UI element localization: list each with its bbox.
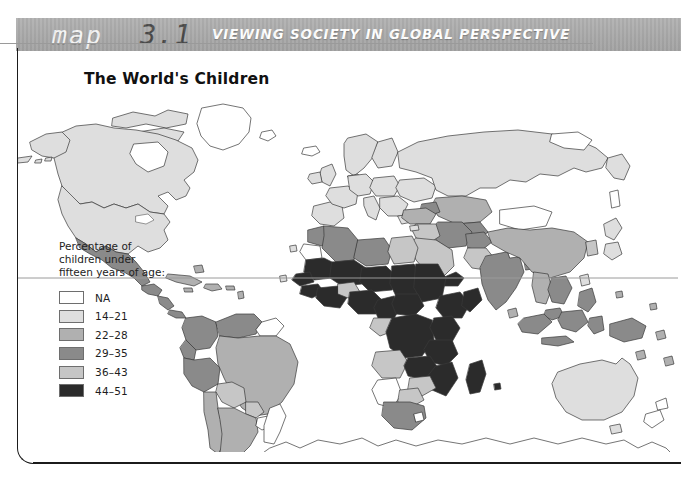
legend-label-na: NA — [95, 292, 110, 304]
region-venezuela — [216, 314, 262, 338]
region-india — [480, 252, 524, 310]
region-ireland — [308, 172, 322, 184]
map-legend: Percentage of children under fifteen yea… — [59, 240, 209, 400]
region-algeria — [322, 226, 358, 262]
region-papua-new-guinea — [610, 318, 646, 342]
legend-item-na: NA — [59, 288, 209, 307]
region-indonesia-sumatra — [518, 314, 552, 334]
region-uk — [320, 164, 336, 186]
region-pacific-isle-1 — [656, 330, 666, 340]
region-angola — [372, 350, 408, 378]
region-puerto-rico — [226, 286, 235, 290]
region-libya — [354, 238, 392, 266]
legend-swatch-29-35 — [59, 347, 84, 360]
legend-swatch-na — [59, 291, 84, 304]
legend-item-44-51: 44–51 — [59, 381, 209, 400]
header-subtitle: VIEWING SOCIETY IN GLOBAL PERSPECTIVE — [212, 26, 570, 43]
legend-heading-line-3: fifteen years of age: — [59, 266, 174, 279]
region-ukraine-belarus — [396, 178, 436, 202]
region-poland-czech — [370, 176, 400, 196]
region-kamchatka — [606, 154, 630, 180]
region-antarctica — [262, 438, 674, 452]
region-somalia — [462, 288, 482, 312]
legend-label-36-43: 36–43 — [95, 366, 128, 378]
region-iceland — [302, 146, 320, 156]
region-uganda-kenya — [430, 316, 460, 342]
region-pacific-isle-2 — [636, 350, 646, 360]
region-greenland-isle — [260, 130, 276, 141]
region-australia — [552, 358, 638, 420]
region-lesotho — [414, 412, 424, 422]
region-aleutians — [18, 156, 32, 163]
map-header-bar: map 3.1 VIEWING SOCIETY IN GLOBAL PERSPE… — [16, 18, 681, 51]
region-korea — [586, 240, 598, 256]
legend-swatch-36-43 — [59, 366, 84, 379]
legend-swatch-44-51 — [59, 384, 84, 397]
page-frame-bottom-rule — [33, 462, 681, 464]
legend-item-22-28: 22–28 — [59, 326, 209, 345]
region-italy — [364, 196, 380, 220]
legend-heading: Percentage of children under fifteen yea… — [59, 240, 174, 278]
region-cyprus — [410, 225, 419, 231]
region-sri-lanka — [508, 308, 518, 318]
region-greenland — [197, 104, 251, 150]
region-canary — [290, 245, 297, 252]
legend-items: NA 14–21 22–28 29–35 36–43 44–51 — [59, 288, 209, 400]
region-new-zealand-n — [656, 398, 668, 410]
region-western-sahara — [300, 244, 322, 260]
region-borneo — [558, 310, 588, 332]
legend-label-29-35: 29–35 — [95, 347, 128, 359]
legend-swatch-14-21 — [59, 310, 84, 323]
region-vietnam-laos — [548, 276, 572, 304]
header-map-number: 3.1 — [140, 19, 192, 50]
legend-label-14-21: 14–21 — [95, 310, 128, 322]
region-mongolia — [500, 206, 552, 230]
region-afghanistan — [466, 232, 492, 250]
region-pacific-isle-5 — [650, 303, 657, 310]
region-madagascar — [466, 360, 486, 394]
region-sakhalin — [610, 190, 620, 208]
region-aleutian-dot-1 — [35, 159, 42, 163]
page-title: The World's Children — [84, 70, 269, 88]
region-pacific-isle-4 — [616, 291, 623, 298]
legend-label-44-51: 44–51 — [95, 385, 128, 397]
legend-heading-line-1: Percentage of — [59, 240, 174, 253]
region-indonesia-java — [542, 336, 574, 346]
legend-item-14-21: 14–21 — [59, 307, 209, 326]
region-africa-isle — [494, 383, 501, 390]
legend-swatch-22-28 — [59, 328, 84, 341]
region-lesser-antilles — [238, 291, 244, 299]
region-sulawesi — [588, 316, 604, 334]
region-japan-south — [604, 242, 622, 260]
legend-item-29-35: 29–35 — [59, 344, 209, 363]
region-pacific-isle-3 — [664, 356, 674, 366]
region-aleutian-dot-2 — [45, 157, 52, 161]
region-japan — [604, 218, 622, 240]
region-tasmania — [610, 424, 622, 434]
legend-divider-rule — [0, 43, 593, 44]
header-map-word: map — [52, 21, 103, 50]
region-new-zealand-s — [644, 410, 664, 428]
legend-item-36-43: 36–43 — [59, 363, 209, 382]
region-taiwan — [580, 274, 590, 286]
legend-label-22-28: 22–28 — [95, 329, 128, 341]
region-egypt — [388, 236, 418, 264]
region-kazakhstan — [432, 196, 492, 224]
region-senegal — [292, 272, 314, 286]
region-arctic-islands-a — [112, 110, 188, 128]
region-car — [392, 294, 424, 316]
region-philippines — [578, 288, 596, 312]
legend-heading-line-2: children under — [59, 253, 174, 266]
